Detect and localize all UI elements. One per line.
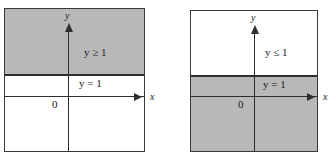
y-axis-arrow-icon xyxy=(251,25,259,34)
x-axis-arrow-icon xyxy=(307,93,315,101)
boundary-equation-label: y = 1 xyxy=(263,79,286,90)
graph-panel-right: x y y ≤ 1 y = 1 0 xyxy=(190,10,318,152)
boundary-line-y-equals-1 xyxy=(5,74,144,76)
x-axis-line xyxy=(191,96,317,97)
origin-label: 0 xyxy=(52,99,58,110)
plot-area-left xyxy=(5,9,144,151)
inequality-label: y ≤ 1 xyxy=(265,47,288,58)
plot-area-right xyxy=(191,11,317,151)
y-axis-line xyxy=(254,33,255,151)
y-axis-line xyxy=(68,31,69,151)
origin-label: 0 xyxy=(238,99,244,110)
y-axis-label: y xyxy=(65,11,69,21)
figure-stage: x y y ≥ 1 y = 1 0 x y y ≤ 1 xyxy=(0,0,328,160)
shaded-region-above xyxy=(5,9,144,75)
y-axis-arrow-icon xyxy=(65,23,73,32)
x-axis-label: x xyxy=(150,92,154,102)
boundary-equation-label: y = 1 xyxy=(79,78,102,89)
x-axis-label: x xyxy=(323,92,327,102)
y-axis-label: y xyxy=(251,13,255,23)
x-axis-line xyxy=(5,96,144,97)
inequality-label: y ≥ 1 xyxy=(84,47,107,58)
x-axis-arrow-icon xyxy=(134,93,142,101)
graph-panel-left: x y y ≥ 1 y = 1 0 xyxy=(4,8,145,152)
